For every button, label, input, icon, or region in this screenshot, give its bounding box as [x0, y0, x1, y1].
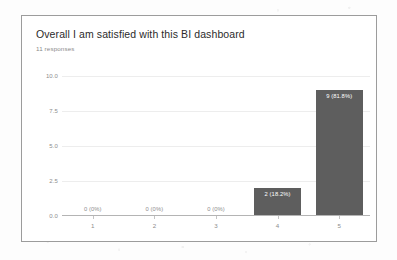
- x-tick-mark: [339, 216, 340, 219]
- x-tick-mark: [154, 216, 155, 219]
- y-axis: 10.0 7.5 5.0 2.5 0.0: [22, 76, 62, 216]
- x-tick-label: 2: [124, 222, 186, 229]
- y-tick-label: 0.0: [49, 213, 58, 219]
- y-tick-label: 5.0: [49, 143, 58, 149]
- card-header: Overall I am satisfied with this BI dash…: [22, 16, 376, 52]
- bar-slot: 0 (0%): [185, 76, 247, 216]
- bar-slot: 0 (0%): [124, 76, 186, 216]
- x-tick: 2: [124, 216, 186, 236]
- x-tick: 3: [185, 216, 247, 236]
- x-tick-label: 4: [247, 222, 309, 229]
- x-tick: 4: [247, 216, 309, 236]
- y-tick-label: 7.5: [49, 108, 58, 114]
- bar-category-5[interactable]: 9 (81.8%): [316, 90, 363, 216]
- x-tick-label: 3: [185, 222, 247, 229]
- bar-slot: 0 (0%): [62, 76, 124, 216]
- bar-chart: 10.0 7.5 5.0 2.5 0.0 0 (0%) 0 (0%): [22, 76, 378, 236]
- bar-series: 0 (0%) 0 (0%) 0 (0%) 2 (18.2%): [62, 76, 370, 216]
- x-tick-mark: [93, 216, 94, 219]
- bar-value-label: 0 (0%): [146, 206, 164, 212]
- y-tick-label: 10.0: [46, 73, 58, 79]
- bar-value-label: 2 (18.2%): [265, 191, 291, 197]
- bar-value-label: 9 (81.8%): [326, 93, 352, 99]
- x-tick: 1: [62, 216, 124, 236]
- form-response-card: Overall I am satisfied with this BI dash…: [21, 15, 377, 242]
- x-tick-label: 1: [62, 222, 124, 229]
- x-tick-mark: [216, 216, 217, 219]
- y-tick-label: 2.5: [49, 178, 58, 184]
- page-title: Overall I am satisfied with this BI dash…: [36, 28, 376, 41]
- bar-slot: 9 (81.8%): [308, 76, 370, 216]
- x-tick-mark: [278, 216, 279, 219]
- bar-slot: 2 (18.2%): [247, 76, 309, 216]
- bar-value-label: 0 (0%): [84, 206, 102, 212]
- x-axis: 1 2 3 4 5: [62, 216, 370, 236]
- plot-area: 0 (0%) 0 (0%) 0 (0%) 2 (18.2%): [62, 76, 370, 216]
- bar-category-4[interactable]: 2 (18.2%): [254, 188, 301, 216]
- x-tick-label: 5: [308, 222, 370, 229]
- x-tick: 5: [308, 216, 370, 236]
- response-count-label: 11 responses: [36, 45, 376, 52]
- bar-value-label: 0 (0%): [207, 206, 225, 212]
